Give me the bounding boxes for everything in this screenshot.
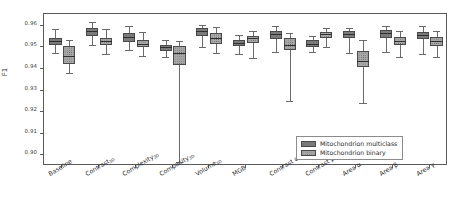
- legend-label: Mitochondrion multiclass: [320, 140, 397, 147]
- cap-lower: [199, 47, 206, 48]
- y-axis-title: F1: [1, 68, 9, 76]
- median-line: [380, 33, 392, 34]
- box-iqr: [247, 36, 259, 44]
- cap-lower: [102, 54, 109, 55]
- whisker-lower: [239, 46, 240, 54]
- median-line: [86, 31, 98, 32]
- median-line: [247, 38, 259, 39]
- median-line: [123, 37, 135, 38]
- whisker-lower: [290, 50, 291, 101]
- cap-lower: [125, 50, 132, 51]
- cap-lower: [346, 53, 353, 54]
- whisker-lower: [143, 47, 144, 56]
- cap-lower: [139, 56, 146, 57]
- cap-upper: [419, 26, 426, 27]
- cap-upper: [396, 31, 403, 32]
- whisker-lower: [349, 38, 350, 53]
- whisker-lower: [437, 46, 438, 57]
- cap-lower: [323, 47, 330, 48]
- box-iqr: [357, 51, 369, 67]
- median-line: [49, 41, 61, 42]
- x-tick-label: MGB: [231, 164, 247, 177]
- whisker-lower: [106, 45, 107, 54]
- whisker-lower: [69, 64, 70, 73]
- median-line: [210, 38, 222, 39]
- cap-upper: [249, 31, 256, 32]
- y-axis: 0.960.950.940.930.920.910.90: [0, 13, 43, 165]
- whisker-upper: [55, 29, 56, 38]
- median-line: [233, 43, 245, 44]
- cap-lower: [52, 53, 59, 54]
- cap-upper: [382, 26, 389, 27]
- cap-lower: [162, 57, 169, 58]
- cap-upper: [272, 26, 279, 27]
- whisker-upper: [106, 29, 107, 38]
- cap-upper: [309, 36, 316, 37]
- median-line: [160, 47, 172, 48]
- median-line: [63, 56, 75, 57]
- cap-lower: [382, 52, 389, 53]
- whisker-lower: [276, 39, 277, 52]
- chart-legend: Mitochondrion multiclassMitochondrion bi…: [296, 136, 403, 160]
- x-axis: BaselineContrast3DComplexity3DCompacity3…: [43, 165, 447, 218]
- cap-upper: [433, 31, 440, 32]
- cap-lower: [272, 52, 279, 53]
- cap-lower: [213, 53, 220, 54]
- cap-upper: [286, 33, 293, 34]
- cap-upper: [235, 35, 242, 36]
- cap-upper: [125, 26, 132, 27]
- whisker-lower: [202, 36, 203, 47]
- legend-swatch: [301, 141, 316, 147]
- median-line: [343, 34, 355, 35]
- chart-figure: 0.960.950.940.930.920.910.90 F1 Baseline…: [0, 0, 456, 218]
- y-tick-label: 0.91: [25, 128, 37, 134]
- whisker-lower: [216, 44, 217, 53]
- cap-lower: [359, 103, 366, 104]
- median-line: [430, 41, 442, 42]
- whisker-lower: [363, 67, 364, 104]
- cap-upper: [139, 32, 146, 33]
- cap-upper: [199, 25, 206, 26]
- legend-swatch: [301, 150, 316, 156]
- median-line: [417, 35, 429, 36]
- cap-upper: [89, 22, 96, 23]
- median-line: [137, 44, 149, 45]
- cap-upper: [66, 40, 73, 41]
- median-line: [100, 41, 112, 42]
- cap-upper: [176, 41, 183, 42]
- whisker-lower: [386, 38, 387, 52]
- y-tick-label: 0.93: [25, 85, 37, 91]
- cap-lower: [66, 73, 73, 74]
- cap-lower: [89, 45, 96, 46]
- box-iqr: [63, 46, 75, 63]
- whisker-upper: [143, 32, 144, 40]
- whisker-lower: [326, 38, 327, 47]
- cap-lower: [396, 57, 403, 58]
- box-iqr: [173, 46, 185, 65]
- y-tick-label: 0.92: [25, 106, 37, 112]
- cap-upper: [52, 29, 59, 30]
- whisker-lower: [423, 39, 424, 54]
- median-line: [320, 34, 332, 35]
- whisker-lower: [55, 45, 56, 54]
- median-line: [284, 45, 296, 46]
- cap-lower: [309, 52, 316, 53]
- whisker-lower: [179, 65, 180, 162]
- y-tick-label: 0.95: [25, 41, 37, 47]
- legend-label: Mitochondrion binary: [320, 149, 386, 156]
- cap-upper: [359, 40, 366, 41]
- cap-upper: [102, 29, 109, 30]
- cap-lower: [235, 54, 242, 55]
- cap-upper: [346, 28, 353, 29]
- cap-upper: [213, 27, 220, 28]
- median-line: [270, 34, 282, 35]
- whisker-lower: [253, 43, 254, 58]
- cap-lower: [433, 57, 440, 58]
- whisker-lower: [129, 42, 130, 49]
- whisker-upper: [363, 40, 364, 51]
- cap-lower: [249, 58, 256, 59]
- median-line: [357, 61, 369, 62]
- whisker-lower: [400, 45, 401, 57]
- cap-upper: [162, 40, 169, 41]
- cap-lower: [419, 54, 426, 55]
